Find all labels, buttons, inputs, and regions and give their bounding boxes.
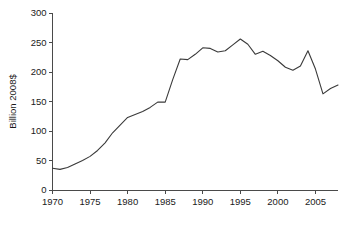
x-tick-label: 2000 — [267, 196, 288, 207]
y-axis-title: Billion 2008$ — [7, 74, 18, 129]
x-tick-label: 1980 — [117, 196, 138, 207]
x-tick-label: 1995 — [230, 196, 251, 207]
line-chart: 0501001502002503001970197519801985199019… — [0, 0, 349, 225]
x-tick-label: 1970 — [42, 196, 63, 207]
data-series-line — [53, 39, 339, 169]
y-tick-label: 150 — [31, 96, 47, 107]
x-tick-label: 2005 — [305, 196, 326, 207]
x-tick-label: 1985 — [155, 196, 176, 207]
y-tick-label: 0 — [41, 184, 46, 195]
x-tick-label: 1975 — [79, 196, 100, 207]
y-tick-label: 50 — [36, 155, 47, 166]
x-tick-label: 1990 — [192, 196, 213, 207]
chart-canvas: 0501001502002503001970197519801985199019… — [0, 0, 349, 225]
y-tick-label: 250 — [31, 37, 47, 48]
y-tick-label: 100 — [31, 125, 47, 136]
y-tick-label: 300 — [31, 7, 47, 18]
y-tick-label: 200 — [31, 66, 47, 77]
